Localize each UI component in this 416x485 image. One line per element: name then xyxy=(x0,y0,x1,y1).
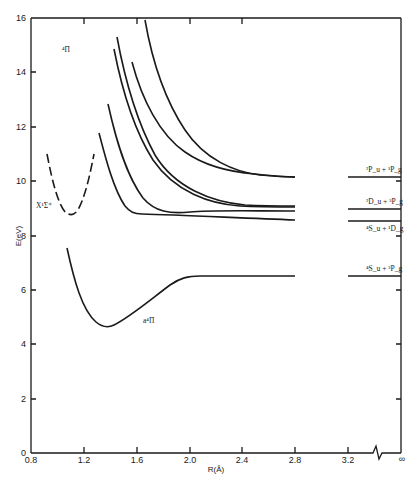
curve-2pu-3pg-high xyxy=(145,20,295,177)
y-tick-label: 4 xyxy=(21,339,26,349)
potential-energy-chart: 0.8 1.2 1.6 2.0 2.4 2.8 3.2 ∞ 0 2 4 6 8 … xyxy=(0,0,416,485)
curve-2du-3pg-low xyxy=(108,104,295,213)
y-tick-label: 2 xyxy=(21,394,26,404)
y-axis-label: E(eV) xyxy=(14,225,23,246)
asymptotes: ²P_u + ³P_g ²D_u + ³P_g ⁴S_u + ¹D_g ⁴S_u… xyxy=(348,165,404,276)
a-state-curve xyxy=(67,248,295,327)
x-axis-label: R(Å) xyxy=(208,465,225,474)
curve-2pu-3pg-low xyxy=(132,62,295,177)
y-tick-label: 12 xyxy=(16,122,26,132)
x-tick-label: 0.8 xyxy=(25,455,38,465)
x-tick-label: 3.2 xyxy=(342,455,355,465)
x-tick-label: ∞ xyxy=(399,454,405,464)
asymptote-label: ²P_u + ³P_g xyxy=(366,165,402,174)
asymptote-label: ⁴S_u + ³P_g xyxy=(366,264,402,273)
x-tick-labels: 0.8 1.2 1.6 2.0 2.4 2.8 3.2 ∞ xyxy=(25,454,405,465)
state-label-a: a⁴Π xyxy=(143,316,155,325)
curve-crossing xyxy=(117,37,295,206)
y-tick-label: 14 xyxy=(16,67,26,77)
x-tick-label: 1.2 xyxy=(78,455,91,465)
axes: 0.8 1.2 1.6 2.0 2.4 2.8 3.2 ∞ 0 2 4 6 8 … xyxy=(14,13,405,474)
asymptote-label: ⁴S_u + ¹D_g xyxy=(366,224,404,233)
curve-2du-3pg-high xyxy=(114,49,295,207)
state-label-4pi: ⁴Π xyxy=(62,45,71,54)
y-ticks xyxy=(31,72,401,399)
asymptote-label: ²D_u + ³P_g xyxy=(366,197,403,206)
x-tick-label: 1.6 xyxy=(131,455,144,465)
x-ticks xyxy=(84,18,348,453)
y-tick-label: 0 xyxy=(21,448,26,458)
x-tick-label: 2.4 xyxy=(236,455,249,465)
y-tick-label: 16 xyxy=(16,13,26,23)
y-tick-label: 6 xyxy=(21,285,26,295)
y-tick-label: 10 xyxy=(16,176,26,186)
x-tick-label: 2.0 xyxy=(184,455,197,465)
x-tick-label: 2.8 xyxy=(289,455,302,465)
curves xyxy=(47,20,295,327)
x-state-curve xyxy=(47,154,94,215)
state-label-x: X¹Σ⁺ xyxy=(36,201,52,210)
